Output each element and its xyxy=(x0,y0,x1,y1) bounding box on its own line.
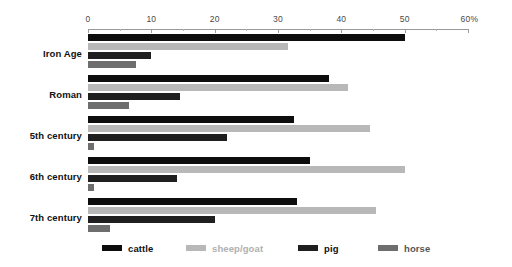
bar-pig xyxy=(88,175,177,182)
category-label: Roman xyxy=(0,73,82,115)
category-label: Iron Age xyxy=(0,32,82,74)
bar-set xyxy=(88,198,488,236)
x-axis-minor-tick xyxy=(183,29,184,31)
x-axis-tick-label: 20 xyxy=(210,14,220,24)
legend-item-pig[interactable]: pig xyxy=(298,240,339,256)
bar-pig xyxy=(88,52,151,59)
bar-cattle xyxy=(88,198,297,205)
bar-cattle xyxy=(88,34,405,41)
bar-sheep-goat xyxy=(88,166,405,173)
bar-set xyxy=(88,75,488,113)
bar-pig xyxy=(88,93,180,100)
legend-label: sheep/goat xyxy=(212,243,263,254)
bar-set xyxy=(88,157,488,195)
bar-pig xyxy=(88,216,215,223)
bar-group: 6th century xyxy=(0,155,512,197)
legend-label: cattle xyxy=(128,243,153,254)
x-axis-tick-label: 50 xyxy=(400,14,410,24)
x-axis-tick-label: 0 xyxy=(86,14,91,24)
bar-sheep-goat xyxy=(88,207,376,214)
bar-cattle xyxy=(88,116,294,123)
bar-chart: 0102030405060% Iron AgeRoman5th century6… xyxy=(0,0,512,267)
chart-legend: cattlesheep/goatpighorse xyxy=(0,240,512,260)
legend-swatch-icon xyxy=(186,245,206,251)
category-label: 6th century xyxy=(0,155,82,197)
x-axis-minor-tick xyxy=(436,29,437,31)
x-axis-minor-tick xyxy=(120,29,121,31)
bar-group: 7th century xyxy=(0,196,512,238)
legend-label: horse xyxy=(404,243,430,254)
bar-cattle xyxy=(88,157,310,164)
bar-horse xyxy=(88,143,94,150)
bar-horse xyxy=(88,184,94,191)
legend-item-sheep-goat[interactable]: sheep/goat xyxy=(186,240,263,256)
legend-item-horse[interactable]: horse xyxy=(378,240,430,256)
bar-pig xyxy=(88,134,227,141)
bar-horse xyxy=(88,225,110,232)
category-label: 5th century xyxy=(0,114,82,156)
legend-label: pig xyxy=(324,243,339,254)
bar-sheep-goat xyxy=(88,125,370,132)
bar-horse xyxy=(88,61,136,68)
plot-area: Iron AgeRoman5th century6th century7th c… xyxy=(0,32,512,236)
x-axis-minor-tick xyxy=(373,29,374,31)
x-axis: 0102030405060% xyxy=(0,0,512,32)
bar-set xyxy=(88,116,488,154)
x-axis-tick-label: 30 xyxy=(273,14,283,24)
bar-horse xyxy=(88,102,129,109)
bar-group: Iron Age xyxy=(0,32,512,74)
category-label: 7th century xyxy=(0,196,82,238)
bar-set xyxy=(88,34,488,72)
bar-sheep-goat xyxy=(88,43,288,50)
legend-swatch-icon xyxy=(378,245,398,251)
bar-cattle xyxy=(88,75,329,82)
bar-group: Roman xyxy=(0,73,512,115)
legend-swatch-icon xyxy=(102,245,122,251)
x-axis-tick-label: 40 xyxy=(336,14,346,24)
legend-item-cattle[interactable]: cattle xyxy=(102,240,153,256)
bar-group: 5th century xyxy=(0,114,512,156)
x-axis-tick-label: 60% xyxy=(461,14,479,24)
x-axis-minor-tick xyxy=(310,29,311,31)
legend-swatch-icon xyxy=(298,245,318,251)
x-axis-tick-label: 10 xyxy=(146,14,156,24)
x-axis-minor-tick xyxy=(246,29,247,31)
bar-sheep-goat xyxy=(88,84,348,91)
